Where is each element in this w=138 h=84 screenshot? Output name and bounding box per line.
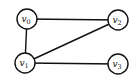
edge-v0-v2 (27, 19, 118, 20)
graph-diagram: v0v1v2v3 (0, 0, 138, 84)
node-v3: v3 (108, 54, 128, 74)
node-v1: v1 (15, 53, 35, 73)
edge-v1-v2 (25, 20, 118, 63)
edges (25, 19, 118, 64)
node-v2: v2 (108, 10, 128, 30)
edge-v1-v3 (25, 63, 118, 64)
node-v0: v0 (17, 9, 37, 29)
